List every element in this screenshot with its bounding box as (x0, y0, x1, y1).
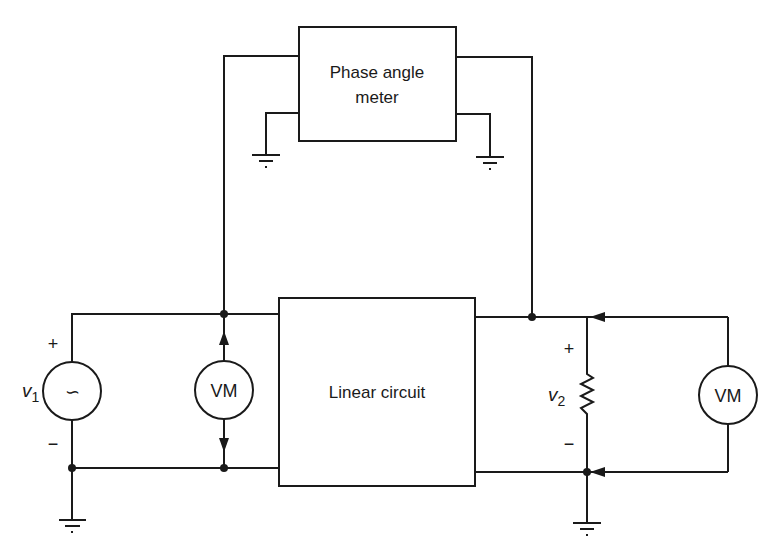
arrow-left-icon (590, 312, 605, 322)
ground-icon (476, 157, 504, 169)
phase-angle-meter-box (299, 27, 456, 141)
sine-wave-icon: ∽ (65, 382, 80, 402)
phase-meter-label-line1: Phase angle (330, 63, 425, 82)
phase-meter-input2-wire (456, 57, 532, 317)
circuit-diagram: Phase angle meter Linear circuit ∽ + − v… (0, 0, 780, 560)
phase-meter-ground-wire-left (266, 113, 299, 155)
ground-icon (252, 155, 280, 167)
linear-circuit-label: Linear circuit (329, 383, 426, 402)
load-resistor-icon (581, 317, 593, 472)
input-top-wire (72, 314, 279, 362)
phase-meter-input1-wire (224, 56, 299, 314)
phase-meter-ground-wire-right (456, 114, 490, 157)
phase-meter-label-line2: meter (355, 88, 399, 107)
junction-dot (528, 313, 536, 321)
ground-icon (573, 523, 601, 535)
arrow-left-icon (590, 467, 605, 477)
voltmeter-left-label: VM (211, 381, 238, 401)
junction-dot (220, 464, 228, 472)
load-minus-sign: − (564, 434, 575, 454)
junction-dot (68, 464, 76, 472)
load-voltage-label: v2 (548, 384, 566, 409)
input-bottom-wire (72, 420, 279, 468)
junction-dot (583, 468, 591, 476)
load-plus-sign: + (564, 339, 575, 359)
arrow-down-icon (219, 438, 229, 452)
source-minus-sign: − (48, 434, 59, 454)
arrow-up-icon (219, 331, 229, 345)
source-plus-sign: + (48, 334, 59, 354)
source-voltage-label: v1 (22, 380, 40, 405)
junction-dot (220, 310, 228, 318)
voltmeter-right-label: VM (715, 386, 742, 406)
ground-icon (59, 520, 86, 532)
